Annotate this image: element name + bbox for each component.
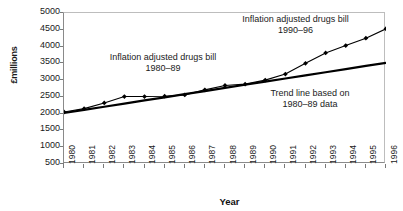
x-axis-tick-mark bbox=[164, 164, 165, 168]
y-axis-tick-labels: 500045004000350030002500200015001000500 bbox=[24, 0, 60, 211]
y-axis-tick-label: 4000 bbox=[26, 41, 60, 50]
x-axis-tick-label: 1987 bbox=[207, 130, 217, 164]
x-axis-tick-mark bbox=[365, 164, 366, 168]
y-axis-tick-label: 2000 bbox=[26, 108, 60, 117]
y-axis-tick-label: 5000 bbox=[26, 7, 60, 16]
data-point-marker bbox=[283, 72, 288, 77]
x-axis-tick-label: 1994 bbox=[348, 130, 358, 164]
x-axis-tick-label: 1993 bbox=[328, 130, 338, 164]
data-point-marker bbox=[384, 26, 386, 31]
x-axis-tick-label: 1995 bbox=[368, 130, 378, 164]
y-axis-tick-label: 4500 bbox=[26, 24, 60, 33]
annotation-trend-line: Trend line based on 1980–89 data bbox=[240, 88, 380, 110]
x-axis-tick-mark bbox=[284, 164, 285, 168]
x-axis-tick-mark bbox=[184, 164, 185, 168]
x-axis-tick-mark bbox=[83, 164, 84, 168]
x-axis-tick-labels: 1980198119821983198419851986198719881989… bbox=[63, 164, 385, 198]
x-axis-tick-mark bbox=[123, 164, 124, 168]
data-point-marker bbox=[102, 101, 107, 106]
x-axis-tick-label: 1991 bbox=[288, 130, 298, 164]
x-axis-tick-label: 1980 bbox=[67, 130, 77, 164]
x-axis-tick-label: 1988 bbox=[228, 130, 238, 164]
x-axis-title-text: Year bbox=[219, 196, 239, 207]
x-axis-tick-label: 1996 bbox=[389, 130, 399, 164]
x-axis-tick-mark bbox=[385, 164, 386, 168]
x-axis-tick-mark bbox=[345, 164, 346, 168]
data-point-marker bbox=[142, 94, 147, 99]
annotation-inflation-adjusted-1980-89: Inflation adjusted drugs bill 1980–89 bbox=[88, 52, 238, 74]
x-axis-tick-mark bbox=[305, 164, 306, 168]
x-axis-tick-label: 1992 bbox=[308, 130, 318, 164]
x-axis-tick-mark bbox=[264, 164, 265, 168]
x-axis-tick-label: 1981 bbox=[87, 130, 97, 164]
drugs-bill-line-chart: £millions 500045004000350030002500200015… bbox=[0, 0, 403, 211]
data-point-marker bbox=[303, 61, 308, 66]
x-axis-tick-label: 1986 bbox=[187, 130, 197, 164]
y-axis-tick-label: 1000 bbox=[26, 141, 60, 150]
x-axis-tick-label: 1983 bbox=[127, 130, 137, 164]
x-axis-tick-label: 1985 bbox=[167, 130, 177, 164]
x-axis-tick-label: 1989 bbox=[248, 130, 258, 164]
y-axis-tick-label: 2500 bbox=[26, 91, 60, 100]
data-point-marker bbox=[122, 94, 127, 99]
x-axis-tick-label: 1984 bbox=[147, 130, 157, 164]
x-axis-tick-mark bbox=[224, 164, 225, 168]
x-axis-tick-mark bbox=[204, 164, 205, 168]
y-axis-tick-label: 500 bbox=[26, 158, 60, 167]
x-axis-title: Year bbox=[0, 196, 403, 207]
y-axis-tick-label: 3000 bbox=[26, 74, 60, 83]
data-point-marker bbox=[343, 43, 348, 48]
x-axis-tick-mark bbox=[63, 164, 64, 168]
y-axis-tick-label: 1500 bbox=[26, 124, 60, 133]
x-axis-tick-mark bbox=[144, 164, 145, 168]
x-axis-tick-label: 1982 bbox=[107, 130, 117, 164]
y-axis-title: £millions bbox=[9, 25, 19, 105]
data-point-marker bbox=[323, 51, 328, 56]
x-axis-tick-mark bbox=[325, 164, 326, 168]
annotation-inflation-adjusted-1990-96: Inflation adjusted drugs bill 1990–96 bbox=[218, 14, 373, 36]
x-axis-tick-mark bbox=[103, 164, 104, 168]
data-point-marker bbox=[363, 36, 368, 41]
y-axis-tick-label: 3500 bbox=[26, 57, 60, 66]
x-axis-tick-mark bbox=[244, 164, 245, 168]
x-axis-tick-label: 1990 bbox=[268, 130, 278, 164]
